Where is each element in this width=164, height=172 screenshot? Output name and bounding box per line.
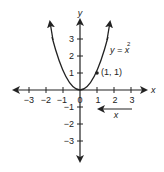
y-axis-label: y xyxy=(77,8,83,18)
arrow-label: x xyxy=(113,110,119,120)
function-exponent: 2 xyxy=(127,41,131,47)
y-tick-label: 2 xyxy=(69,51,74,61)
y-tick-label: −2 xyxy=(64,119,74,129)
x-tick-label: 2 xyxy=(112,95,117,105)
origin-label: 0 xyxy=(77,95,82,105)
x-tick-label: 3 xyxy=(129,95,134,105)
point-label: (1, 1) xyxy=(101,67,122,77)
x-tick-label: −2 xyxy=(41,95,51,105)
y-tick-label: 3 xyxy=(69,34,74,44)
graph-canvas: −3 −2 −1 1 2 3 0 3 2 1 −1 −2 −3 x y y = … xyxy=(0,0,164,172)
point-marker xyxy=(95,71,99,75)
y-tick-label: 1 xyxy=(69,68,74,78)
x-tick-label: 1 xyxy=(95,95,100,105)
x-axis-label: x xyxy=(150,85,156,95)
y-tick-label: −1 xyxy=(64,102,74,112)
x-tick-label: −3 xyxy=(24,95,34,105)
y-tick-label: −3 xyxy=(64,136,74,146)
